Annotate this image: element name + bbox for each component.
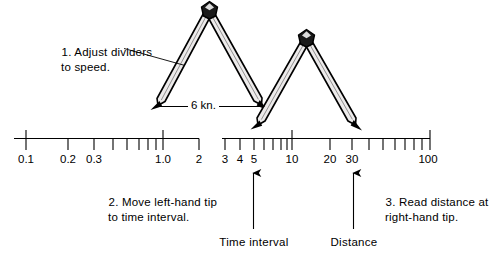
step-2-line-1: 2. Move left-hand tip	[109, 196, 217, 208]
scale-label-30: 30	[346, 153, 359, 165]
scale-left-segment	[14, 130, 199, 150]
divider-right-leg-left	[251, 40, 310, 130]
step-3-line-1: 3. Read distance at	[386, 196, 489, 208]
step-2-annotation: 2. Move left-hand tipto time interval.	[95, 180, 217, 255]
step-1-line-1: 1. Adjust dividers	[62, 46, 153, 58]
speed-value-label: 6 kn.	[188, 99, 219, 111]
speed-time-distance-diagram: 1. Adjust dividersto speed. 6 kn. 0.1 0.…	[0, 0, 499, 262]
divider-right-leg-right	[304, 40, 362, 131]
scale-right-segment	[222, 130, 430, 150]
divider-left-hinge-icon	[202, 2, 218, 20]
scale-label-0-1: 0.1	[18, 153, 34, 165]
scale-label-2: 2	[196, 153, 202, 165]
scale-label-3: 3	[222, 153, 228, 165]
divider-right	[251, 30, 363, 131]
distance-caption: Distance	[330, 236, 377, 248]
divider-left-leg-left	[151, 12, 212, 111]
scale-label-100: 100	[418, 153, 437, 165]
step-1-annotation: 1. Adjust dividersto speed.	[48, 30, 152, 105]
time-interval-caption: Time interval	[219, 236, 288, 248]
scale-label-4: 4	[237, 153, 243, 165]
scale-label-0-3: 0.3	[86, 153, 102, 165]
scale-label-1-0: 1.0	[155, 153, 171, 165]
step-1-line-2: to speed.	[48, 60, 152, 75]
scale-label-10: 10	[286, 153, 299, 165]
scale-label-5: 5	[251, 153, 257, 165]
scale-label-0-2: 0.2	[60, 153, 76, 165]
divider-left-leg-right	[207, 12, 269, 111]
step-2-line-2: to time interval.	[95, 210, 217, 225]
scale-label-20: 20	[324, 153, 337, 165]
divider-left	[151, 2, 269, 111]
divider-right-hinge-icon	[299, 30, 315, 48]
step-3-line-2: right-hand tip.	[372, 210, 489, 225]
step-3-annotation: 3. Read distance atright-hand tip.	[372, 180, 489, 255]
